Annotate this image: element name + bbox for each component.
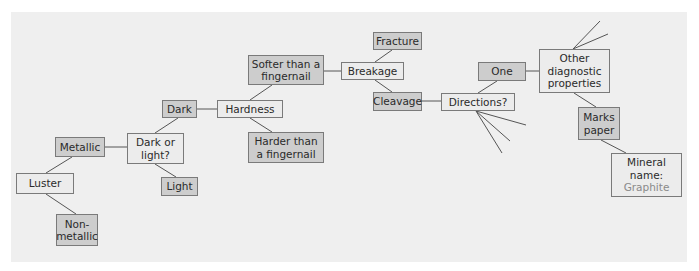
node-mineral-name: Mineral name: Graphite <box>611 153 682 197</box>
node-metallic: Metallic <box>55 137 105 157</box>
node-fracture: Fracture <box>373 32 422 50</box>
node-dark-or-light: Dark or light? <box>127 133 184 164</box>
node-one: One <box>478 62 526 81</box>
node-light: Light <box>161 177 198 196</box>
node-cleavage: Cleavage <box>373 92 422 111</box>
node-dark: Dark <box>162 100 197 118</box>
node-harder-than-fingernail: Harder than a fingernail <box>248 132 324 163</box>
node-other-diagnostic-properties: Other diagnostic properties <box>539 49 610 93</box>
mineral-name-label: Mineral name: <box>627 156 666 181</box>
node-luster: Luster <box>16 173 74 194</box>
mineral-name-value: Graphite <box>624 181 670 194</box>
node-softer-than-fingernail: Softer than a fingernail <box>248 55 324 85</box>
node-marks-paper: Marks paper <box>578 107 620 140</box>
node-breakage: Breakage <box>341 62 404 80</box>
node-directions: Directions? <box>441 93 515 111</box>
node-nonmetallic: Non- metallic <box>56 214 98 246</box>
node-hardness: Hardness <box>217 100 283 118</box>
